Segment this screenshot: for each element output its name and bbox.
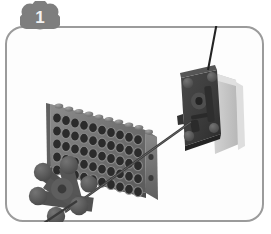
stud [125, 123, 134, 128]
cross-knob [80, 175, 97, 192]
cross-knob [60, 156, 78, 174]
motor-pin [184, 131, 194, 141]
stud [115, 120, 124, 125]
plate-side-hole [148, 154, 153, 160]
plate-side-hole [148, 175, 153, 181]
stud [145, 130, 153, 135]
cross-knob [70, 197, 88, 215]
motor-wire-port [177, 114, 184, 125]
motor-axle-hole [195, 97, 202, 105]
stud [85, 112, 94, 117]
step-number-badge: 1 [20, 1, 60, 32]
motor-pin [183, 78, 193, 88]
stud [105, 117, 114, 122]
stud [135, 125, 144, 130]
antenna-rod [208, 26, 217, 70]
step-number-label: 1 [20, 1, 60, 32]
plate-right-edge [145, 130, 158, 200]
stud [75, 109, 84, 114]
stud [95, 115, 104, 120]
motor-pin [209, 123, 219, 133]
cross-knob [29, 187, 47, 205]
motor-pin [207, 72, 217, 82]
instruction-step-page: 1 [0, 0, 271, 234]
cross-knob [34, 163, 52, 181]
cross-hub-hole [58, 185, 67, 194]
stud [65, 107, 74, 112]
stud [55, 104, 64, 109]
motor-unit-group [177, 65, 245, 154]
assembly-illustration [5, 26, 264, 222]
